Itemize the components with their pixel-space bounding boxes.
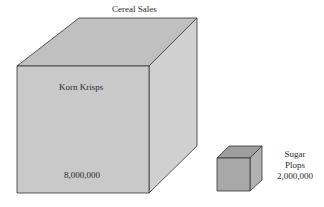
chart-title: Cereal Sales (112, 4, 157, 14)
sugar-plops-name-line1: Sugar (270, 149, 320, 160)
korn-krisps-value: 8,000,000 (64, 170, 100, 180)
sugar-plops-front-face (217, 158, 250, 191)
sugar-plops-name-line2: Plops (270, 160, 320, 171)
sugar-plops-value: 2,000,000 (270, 171, 320, 182)
korn-krisps-label: Korn Krisps (59, 82, 103, 92)
korn-krisps-cube (17, 18, 197, 193)
sugar-plops-label: Sugar Plops 2,000,000 (270, 149, 320, 182)
sugar-plops-cube (217, 146, 262, 191)
